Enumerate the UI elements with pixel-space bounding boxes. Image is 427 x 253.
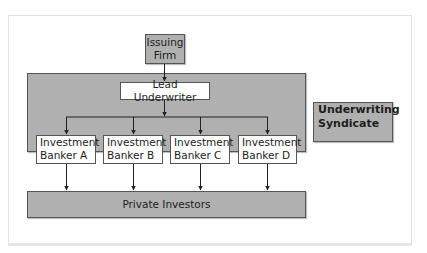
banker-a-line1: Investment [40,136,99,149]
banker-b-line2: Banker B [107,149,154,162]
underwriting-syndicate-label-box: Underwriting Syndicate [313,102,393,142]
banker-b-line1: Investment [107,136,166,149]
banker-d-line2: Banker D [242,149,290,162]
investment-banker-b-box: Investment Banker B [103,135,163,164]
syndicate-label-line2: Syndicate [318,117,379,131]
investment-banker-a-box: Investment Banker A [36,135,96,164]
banker-c-line1: Investment [174,136,233,149]
private-investors-label: Private Investors [122,198,210,211]
lead-underwriter-box: Lead Underwriter [120,82,210,100]
issuing-firm-line1: Issuing [147,36,184,49]
banker-c-line2: Banker C [174,149,221,162]
lead-underwriter-label: Lead Underwriter [121,78,209,104]
issuing-firm-line2: Firm [154,49,177,62]
investment-banker-d-box: Investment Banker D [238,135,297,164]
private-investors-box: Private Investors [27,191,306,218]
banker-a-line2: Banker A [40,149,87,162]
issuing-firm-box: Issuing Firm [145,34,185,64]
syndicate-label-line1: Underwriting [318,103,400,117]
banker-d-line1: Investment [242,136,301,149]
investment-banker-c-box: Investment Banker C [170,135,230,164]
